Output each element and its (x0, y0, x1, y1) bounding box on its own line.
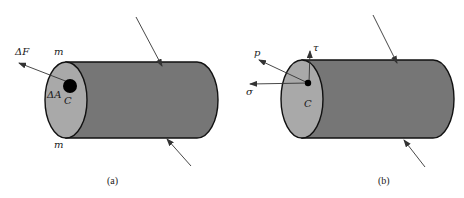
label-p: p (254, 47, 261, 58)
area-element-dot (63, 79, 77, 93)
panel-a: ΔF m m ΔA C (a) (14, 17, 218, 187)
cross-section-face-b (281, 60, 323, 138)
cylinder-body-b (302, 60, 454, 138)
point-c-dot (305, 80, 311, 86)
label-tau: τ (313, 42, 319, 53)
label-point-c-b: C (304, 98, 312, 109)
caption-a: (a) (107, 175, 118, 187)
cylinder-body-a (66, 62, 218, 138)
label-section-m-bottom: m (54, 139, 63, 150)
load-arrow-bottom-a (167, 139, 191, 166)
label-sigma: σ (246, 86, 254, 97)
label-delta-a: ΔA (46, 89, 61, 100)
label-delta-f: ΔF (14, 46, 30, 57)
panel-b: τ p σ C (b) (246, 15, 454, 187)
label-section-m-top: m (54, 46, 63, 57)
load-arrow-bottom-b (404, 140, 425, 167)
caption-b: (b) (378, 175, 390, 187)
load-arrow-top-a (136, 17, 162, 66)
load-arrow-top-b (373, 15, 397, 63)
label-point-c-a: C (64, 95, 72, 106)
stress-diagram-figure: ΔF m m ΔA C (a) τ p σ C (b) (0, 0, 464, 198)
